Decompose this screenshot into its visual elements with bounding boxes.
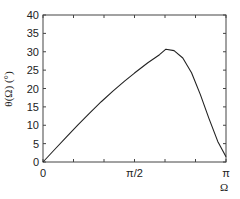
y-axis-label: θ(Ω) (°) (2, 71, 15, 107)
x-tick-label: 0 (40, 167, 46, 179)
x-tick-label: π/2 (126, 167, 143, 179)
y-tick-label: 10 (27, 119, 39, 131)
x-tick-label: π (222, 167, 230, 179)
theta-curve (43, 49, 226, 162)
x-axis-label: Ω (220, 181, 228, 193)
y-tick-label: 40 (27, 9, 39, 21)
y-axis-ticks: 0510152025303540 (27, 9, 226, 168)
y-tick-label: 25 (27, 64, 39, 76)
y-tick-label: 0 (33, 156, 39, 168)
y-tick-label: 20 (27, 83, 39, 95)
y-tick-label: 15 (27, 101, 39, 113)
line-chart: 0510152025303540 0π/2π θ(Ω) (°) Ω (0, 0, 240, 199)
y-tick-label: 30 (27, 46, 39, 58)
y-tick-label: 35 (27, 27, 39, 39)
plot-frame (43, 15, 226, 162)
y-tick-label: 5 (33, 138, 39, 150)
